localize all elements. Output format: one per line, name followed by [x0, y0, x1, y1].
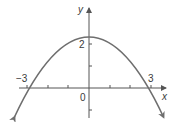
graph-canvas: y x 2 −3 3 0 — [0, 0, 175, 122]
origin-label: 0 — [80, 92, 86, 103]
x-axis-label: x — [161, 91, 168, 102]
y-axis-label: y — [77, 4, 84, 15]
tick-label-neg3: −3 — [16, 73, 28, 84]
tick-label-2: 2 — [79, 39, 85, 50]
tick-label-3: 3 — [148, 73, 154, 84]
